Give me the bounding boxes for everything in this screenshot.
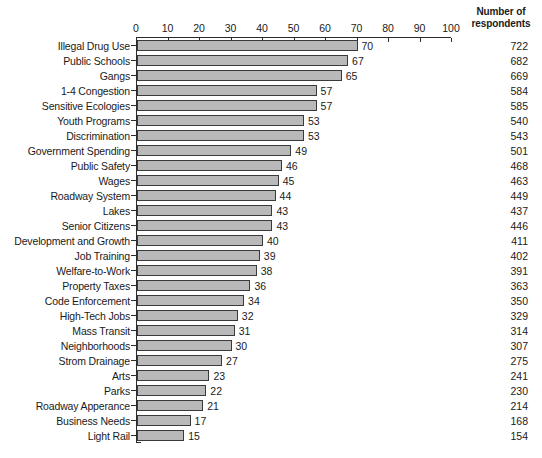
respondents-value: 540	[468, 114, 528, 128]
bar-value-label: 36	[254, 279, 266, 293]
x-axis-tick-label: 60	[319, 22, 331, 34]
bar-value-label: 46	[286, 159, 298, 173]
bar	[137, 400, 203, 411]
bar-value-label: 45	[283, 174, 295, 188]
bar-value-label: 67	[352, 54, 364, 68]
bar-row: Senior Citizens43446	[0, 218, 542, 234]
bar-value-label: 32	[242, 309, 254, 323]
bar-row: Development and Growth40411	[0, 233, 542, 249]
respondents-value: 468	[468, 159, 528, 173]
bar-row: 1-4 Congestion57584	[0, 83, 542, 99]
bar-row: Parks22230	[0, 383, 542, 399]
respondents-value: 314	[468, 324, 528, 338]
category-label: Government Spending	[28, 144, 130, 158]
respondents-value: 363	[468, 279, 528, 293]
y-axis-tick	[131, 75, 136, 76]
x-axis-tick-label: 100	[442, 22, 460, 34]
y-axis-tick	[131, 60, 136, 61]
y-axis-tick	[131, 270, 136, 271]
bar-value-label: 49	[295, 144, 307, 158]
category-label: Neighborhoods	[61, 339, 130, 353]
bar-row: Business Needs17168	[0, 413, 542, 429]
x-axis-tick-label: 10	[162, 22, 174, 34]
bar-row: Sensitive Ecologies57585	[0, 98, 542, 114]
category-label: Gangs	[100, 69, 130, 83]
respondents-value: 402	[468, 249, 528, 263]
category-label: 1-4 Congestion	[61, 84, 130, 98]
respondents-value: 437	[468, 204, 528, 218]
respondents-value: 501	[468, 144, 528, 158]
y-axis-tick	[131, 45, 136, 46]
bar	[137, 55, 348, 66]
respondents-value: 722	[468, 39, 528, 53]
category-label: Property Taxes	[62, 279, 130, 293]
category-label: Lakes	[103, 204, 130, 218]
y-axis-tick	[131, 300, 136, 301]
bar-value-label: 43	[276, 204, 288, 218]
respondents-value: 585	[468, 99, 528, 113]
category-label: Illegal Drug Use	[58, 39, 130, 53]
y-axis-tick	[131, 240, 136, 241]
bar-value-label: 57	[321, 99, 333, 113]
bar-value-label: 30	[236, 339, 248, 353]
category-label: High-Tech Jobs	[60, 309, 130, 323]
respondents-value: 241	[468, 369, 528, 383]
y-axis-tick	[131, 195, 136, 196]
y-axis-tick	[131, 405, 136, 406]
x-axis-tick-label: 80	[382, 22, 394, 34]
y-axis-tick	[131, 330, 136, 331]
category-label: Strom Drainage	[59, 354, 130, 368]
bar-row: Wages45463	[0, 173, 542, 189]
bar-value-label: 34	[248, 294, 260, 308]
bar	[137, 430, 184, 441]
bar	[137, 145, 291, 156]
bar	[137, 40, 358, 51]
bar-row: Government Spending49501	[0, 143, 542, 159]
bar	[137, 205, 272, 216]
category-label: Discrimination	[66, 129, 130, 143]
category-label: Public Safety	[71, 159, 130, 173]
bar-value-label: 15	[188, 429, 200, 443]
category-label: Development and Growth	[14, 234, 130, 248]
bar-row: Arts23241	[0, 368, 542, 384]
respondents-value: 329	[468, 309, 528, 323]
y-axis-tick	[131, 135, 136, 136]
respondents-value: 350	[468, 294, 528, 308]
respondents-value: 214	[468, 399, 528, 413]
bar-value-label: 65	[346, 69, 358, 83]
respondents-value: 275	[468, 354, 528, 368]
bar-value-label: 27	[226, 354, 238, 368]
bar	[137, 175, 279, 186]
bar	[137, 340, 232, 351]
respondents-value: 543	[468, 129, 528, 143]
bar	[137, 160, 282, 171]
x-axis-tick-label: 70	[351, 22, 363, 34]
bar-value-label: 23	[213, 369, 225, 383]
bar-row: Roadway System44449	[0, 188, 542, 204]
bar-value-label: 39	[264, 249, 276, 263]
bar	[137, 85, 317, 96]
category-label: Sensitive Ecologies	[42, 99, 130, 113]
bar	[137, 415, 191, 426]
bar-row: Job Training39402	[0, 248, 542, 264]
bar	[137, 115, 304, 126]
bar-row: Roadway Apperance21214	[0, 398, 542, 414]
bar-chart: Number of respondents 010203040506070809…	[0, 0, 542, 458]
bar	[137, 355, 222, 366]
category-label: Welfare-to-Work	[56, 264, 130, 278]
x-axis-tick-label: 30	[225, 22, 237, 34]
y-axis-tick	[131, 375, 136, 376]
category-label: Senior Citizens	[62, 219, 130, 233]
respondents-value: 154	[468, 429, 528, 443]
bar-row: High-Tech Jobs32329	[0, 308, 542, 324]
respondents-value: 307	[468, 339, 528, 353]
bar-value-label: 57	[321, 84, 333, 98]
y-axis-tick	[131, 285, 136, 286]
bar-row: Neighborhoods30307	[0, 338, 542, 354]
bar	[137, 70, 342, 81]
y-axis-tick	[131, 420, 136, 421]
bar-row: Youth Programs53540	[0, 113, 542, 129]
bar-value-label: 22	[210, 384, 222, 398]
respondents-header-line1: Number of	[466, 6, 536, 18]
bar-row: Public Schools67682	[0, 53, 542, 69]
